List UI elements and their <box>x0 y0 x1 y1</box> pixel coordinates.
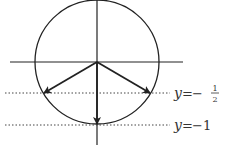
fraction-numerator: 1 <box>212 84 217 93</box>
unit-circle-diagram: y = − 1 2 y = −1 <box>0 0 232 145</box>
fraction-denominator: 2 <box>212 95 217 104</box>
label-value: −1 <box>192 118 211 133</box>
vector-left-lower <box>44 62 97 93</box>
label-y-minus-one: y = −1 <box>173 117 211 133</box>
label-y-minus-half: y = − 1 2 <box>173 84 219 104</box>
vector-right-lower <box>97 62 150 93</box>
label-sign: − <box>192 86 203 101</box>
